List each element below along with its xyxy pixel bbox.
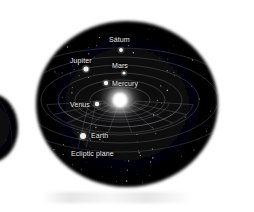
planet-mercury — [102, 79, 110, 87]
solar-system-figure: SatumJupiterMarsMercuryVenusEarthEclipti… — [0, 0, 254, 212]
planet-saturn — [118, 47, 125, 54]
planet-jupiter — [82, 65, 90, 73]
sun — [94, 74, 146, 126]
planet-venus — [93, 100, 101, 108]
solar-system-canvas — [0, 0, 254, 212]
planet-earth — [78, 131, 87, 140]
planet-mars — [121, 70, 127, 76]
